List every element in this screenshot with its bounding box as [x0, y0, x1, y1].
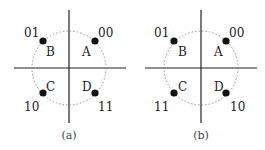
point-d [91, 89, 98, 96]
code-c: 10 [24, 100, 39, 114]
constellation-a: A B C D 00 01 10 11 (a) [14, 10, 126, 142]
point-b [170, 37, 177, 44]
point-c [170, 89, 177, 96]
letter-c: C [178, 80, 187, 94]
code-d: 11 [98, 100, 113, 114]
letter-b: B [46, 45, 55, 59]
letter-a: A [81, 45, 91, 59]
code-b: 01 [154, 26, 169, 40]
caption-b: (b) [193, 129, 209, 142]
constellation-b: A B C D 00 01 11 10 (b) [145, 10, 257, 142]
letter-c: C [46, 80, 55, 94]
caption-a: (a) [61, 129, 76, 142]
qpsk-constellation-figure: A B C D 00 01 10 11 (a) A B C D 00 01 11… [0, 0, 265, 150]
letter-a: A [213, 45, 223, 59]
code-c: 11 [154, 100, 169, 114]
letter-d: D [82, 80, 92, 94]
code-a: 00 [98, 26, 113, 40]
letter-d: D [214, 80, 224, 94]
code-d: 10 [230, 100, 245, 114]
letter-b: B [178, 45, 187, 59]
point-b [39, 37, 46, 44]
code-a: 00 [229, 26, 244, 40]
code-b: 01 [24, 26, 39, 40]
